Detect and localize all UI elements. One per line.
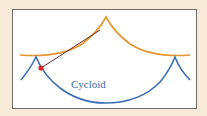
orange-evolute-curve — [20, 17, 190, 56]
tangent-line — [41, 30, 100, 68]
red-point — [38, 65, 43, 70]
cycloid-diagram — [0, 0, 207, 116]
cycloid-label: Cycloid — [71, 78, 106, 90]
